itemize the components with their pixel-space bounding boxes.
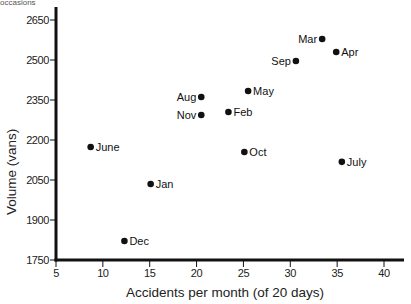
y-tick-label: 2350 — [26, 94, 49, 106]
point-label: June — [96, 141, 120, 153]
data-point: Nov — [177, 109, 205, 121]
point-marker — [293, 58, 300, 65]
point-label: Apr — [341, 46, 358, 58]
point-label: Mar — [298, 33, 317, 45]
x-axis-title: Accidents per month (of 20 days) — [126, 285, 324, 300]
point-marker — [319, 36, 326, 43]
y-tick-label: 1750 — [26, 254, 49, 266]
scatter-chart: occasions 1750190020502200235025002650 5… — [0, 0, 411, 304]
point-marker — [225, 109, 232, 116]
y-tick-label: 2200 — [26, 134, 49, 146]
point-label: Dec — [129, 235, 149, 247]
point-label: May — [253, 85, 274, 97]
point-marker — [245, 88, 252, 95]
point-label: Oct — [249, 146, 266, 158]
data-point: July — [339, 156, 367, 168]
x-tick-label: 25 — [238, 267, 250, 279]
data-point: May — [245, 85, 275, 97]
data-point: Jan — [147, 178, 173, 190]
point-label: Sep — [271, 55, 291, 67]
x-tick-label: 20 — [191, 267, 203, 279]
point-label: Jan — [156, 178, 174, 190]
data-point: Apr — [333, 46, 359, 58]
data-point: Feb — [225, 106, 252, 118]
y-tick-label: 2500 — [26, 54, 49, 66]
point-marker — [147, 181, 154, 188]
y-axis-ticks: 1750190020502200235025002650 — [26, 14, 56, 266]
x-tick-label: 35 — [331, 267, 343, 279]
data-point: June — [87, 141, 119, 153]
point-marker — [198, 112, 205, 119]
point-label: Nov — [177, 109, 197, 121]
point-label: July — [347, 156, 367, 168]
data-point: Sep — [271, 55, 299, 67]
data-point: Aug — [177, 91, 205, 103]
point-label: Aug — [177, 91, 197, 103]
y-axis-title: Volume (vans) — [4, 129, 19, 215]
point-marker — [241, 149, 248, 156]
data-point: Dec — [121, 235, 149, 247]
point-label: Feb — [233, 106, 252, 118]
x-tick-label: 5 — [53, 267, 59, 279]
data-point: Oct — [241, 146, 266, 158]
y-tick-label: 2650 — [26, 14, 49, 26]
x-tick-label: 30 — [285, 267, 297, 279]
data-point: Mar — [298, 33, 325, 45]
point-marker — [339, 159, 346, 166]
x-tick-label: 40 — [378, 267, 390, 279]
point-marker — [87, 144, 94, 151]
cropped-text-fragment: occasions — [0, 0, 36, 7]
x-tick-label: 10 — [97, 267, 109, 279]
x-axis-ticks: 510152025303540 — [53, 260, 390, 279]
data-points: JanFebMarAprMayJuneJulyAugSepOctNovDec — [87, 33, 367, 247]
point-marker — [333, 49, 340, 56]
point-marker — [198, 94, 205, 101]
y-tick-label: 2050 — [26, 174, 49, 186]
point-marker — [121, 238, 128, 245]
x-tick-label: 15 — [144, 267, 156, 279]
y-tick-label: 1900 — [26, 214, 49, 226]
